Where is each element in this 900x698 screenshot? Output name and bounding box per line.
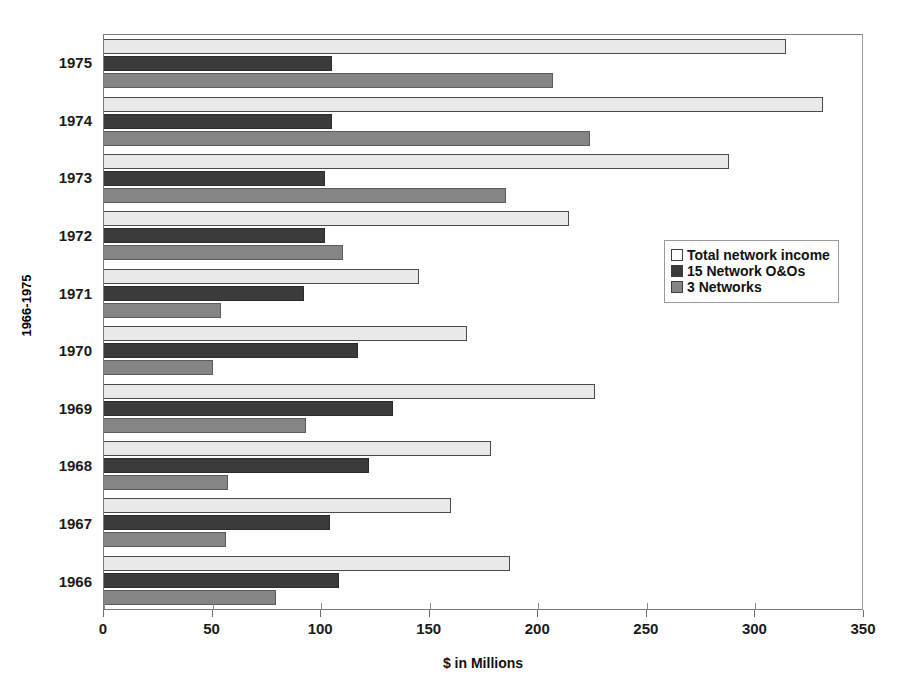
bar[interactable] bbox=[104, 475, 228, 490]
legend-item[interactable]: 15 Network O&Os bbox=[671, 264, 830, 278]
legend-item-label: 3 Networks bbox=[687, 280, 762, 294]
x-axis-tick-label: 300 bbox=[742, 620, 767, 637]
bar[interactable] bbox=[104, 303, 221, 318]
x-axis-tick-label: 100 bbox=[308, 620, 333, 637]
x-axis-tick bbox=[212, 610, 213, 617]
y-axis-tick-label: 1973 bbox=[40, 149, 100, 207]
y-axis-tick-label: 1975 bbox=[40, 34, 100, 92]
y-axis-tick-label: 1971 bbox=[40, 264, 100, 322]
bar-group bbox=[104, 35, 862, 92]
x-axis-tick bbox=[429, 610, 430, 617]
bar-groups bbox=[104, 35, 862, 609]
bar[interactable] bbox=[104, 154, 729, 169]
x-axis-title: $ in Millions bbox=[103, 655, 863, 671]
x-axis-tick bbox=[537, 610, 538, 617]
legend-swatch-icon bbox=[671, 249, 683, 261]
bar[interactable] bbox=[104, 498, 451, 513]
x-axis-tick-label: 200 bbox=[525, 620, 550, 637]
bar[interactable] bbox=[104, 56, 332, 71]
x-axis-tick-label: 0 bbox=[99, 620, 107, 637]
bar[interactable] bbox=[104, 286, 304, 301]
bar[interactable] bbox=[104, 269, 419, 284]
bar[interactable] bbox=[104, 384, 595, 399]
x-axis-tick bbox=[863, 610, 864, 617]
bar[interactable] bbox=[104, 418, 306, 433]
bar-group bbox=[104, 552, 862, 609]
bar[interactable] bbox=[104, 114, 332, 129]
x-axis-inner-tick bbox=[104, 603, 105, 609]
y-axis-tick-label: 1966 bbox=[40, 552, 100, 610]
bar-group bbox=[104, 150, 862, 207]
y-axis-tick-label: 1974 bbox=[40, 92, 100, 150]
bar[interactable] bbox=[104, 573, 339, 588]
x-axis-inner-tick bbox=[755, 603, 756, 609]
y-axis-tick-labels: 1975197419731972197119701969196819671966 bbox=[40, 34, 100, 610]
bar[interactable] bbox=[104, 171, 325, 186]
bar-group bbox=[104, 494, 862, 551]
x-axis-inner-tick bbox=[538, 603, 539, 609]
bar[interactable] bbox=[104, 532, 226, 547]
bar[interactable] bbox=[104, 73, 553, 88]
legend-item-label: 15 Network O&Os bbox=[687, 264, 805, 278]
y-axis-tick-label: 1970 bbox=[40, 322, 100, 380]
bar[interactable] bbox=[104, 458, 369, 473]
y-axis-tick-label: 1969 bbox=[40, 380, 100, 438]
bar-group bbox=[104, 322, 862, 379]
x-axis-tick bbox=[646, 610, 647, 617]
legend-swatch-icon bbox=[671, 265, 683, 277]
bar-group bbox=[104, 92, 862, 149]
bar[interactable] bbox=[104, 360, 213, 375]
bar[interactable] bbox=[104, 326, 467, 341]
y-axis-tick-label: 1968 bbox=[40, 437, 100, 495]
x-axis-inner-tick bbox=[321, 603, 322, 609]
x-axis-tick-label: 250 bbox=[633, 620, 658, 637]
x-axis-tick-labels: 050100150200250300350 bbox=[103, 620, 863, 644]
bar[interactable] bbox=[104, 515, 330, 530]
x-axis-tick bbox=[103, 610, 104, 617]
x-axis-tick bbox=[754, 610, 755, 617]
x-axis-inner-tick bbox=[430, 603, 431, 609]
y-axis-title-text: 1966-1975 bbox=[19, 274, 34, 336]
chart-legend: Total network income15 Network O&Os3 Net… bbox=[664, 240, 839, 303]
bar[interactable] bbox=[104, 228, 325, 243]
plot-area bbox=[103, 34, 863, 610]
x-axis-inner-tick bbox=[647, 603, 648, 609]
y-axis-tick-label: 1972 bbox=[40, 207, 100, 265]
x-axis-tick-label: 150 bbox=[416, 620, 441, 637]
bar[interactable] bbox=[104, 401, 393, 416]
x-axis-ticks bbox=[103, 610, 863, 618]
x-axis-tick-label: 50 bbox=[203, 620, 220, 637]
bar[interactable] bbox=[104, 343, 358, 358]
bar[interactable] bbox=[104, 97, 823, 112]
bar[interactable] bbox=[104, 211, 569, 226]
bar[interactable] bbox=[104, 556, 510, 571]
bar-chart: 1966-1975 197519741973197219711970196919… bbox=[0, 0, 900, 698]
legend-item-label: Total network income bbox=[687, 248, 830, 262]
bar[interactable] bbox=[104, 590, 276, 605]
bar[interactable] bbox=[104, 188, 506, 203]
bar[interactable] bbox=[104, 245, 343, 260]
y-axis-tick-label: 1967 bbox=[40, 495, 100, 553]
bar-group bbox=[104, 379, 862, 436]
x-axis-inner-tick bbox=[213, 603, 214, 609]
legend-item[interactable]: 3 Networks bbox=[671, 280, 830, 294]
x-axis-tick-label: 350 bbox=[850, 620, 875, 637]
bar-group bbox=[104, 437, 862, 494]
legend-item[interactable]: Total network income bbox=[671, 248, 830, 262]
x-axis-tick bbox=[320, 610, 321, 617]
bar[interactable] bbox=[104, 131, 590, 146]
bar[interactable] bbox=[104, 39, 786, 54]
bar[interactable] bbox=[104, 441, 491, 456]
legend-swatch-icon bbox=[671, 281, 683, 293]
